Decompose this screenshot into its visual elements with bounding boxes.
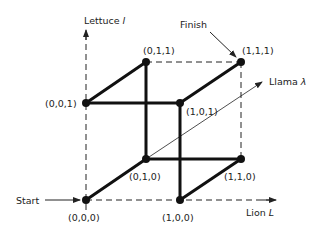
lettuce-axis-label: Lettucel <box>84 15 126 26</box>
node-100 <box>176 196 184 204</box>
finish-label: Finish <box>180 19 207 30</box>
node-001 <box>82 99 90 107</box>
llama-axis <box>146 82 262 159</box>
node-label-001: (0,0,1) <box>45 98 77 109</box>
start-label: Start <box>16 195 39 206</box>
node-000 <box>82 196 90 204</box>
node-label-111: (1,1,1) <box>242 45 274 56</box>
node-label-000: (0,0,0) <box>68 212 100 223</box>
node-label-100: (1,0,0) <box>162 212 194 223</box>
node-label-011: (0,1,1) <box>143 45 175 56</box>
nodes <box>82 58 245 204</box>
node-110 <box>237 155 245 163</box>
node-111 <box>237 58 245 66</box>
node-101 <box>176 99 184 107</box>
solution-path <box>86 62 241 200</box>
lion-axis-label: LionL <box>246 207 274 218</box>
node-label-110: (1,1,0) <box>224 171 256 182</box>
edge-011-001 <box>86 62 146 103</box>
llama-axis-label: Llamaλ <box>269 76 306 87</box>
node-010 <box>142 155 150 163</box>
node-011 <box>142 58 150 66</box>
node-label-101: (1,0,1) <box>186 106 218 117</box>
cube-state-diagram: (0,0,0) (1,0,0) (0,1,0) (1,1,0) (0,0,1) … <box>0 0 318 235</box>
node-label-010: (0,1,0) <box>129 171 161 182</box>
edge-101-111 <box>180 62 241 103</box>
finish-arrow <box>210 32 236 57</box>
